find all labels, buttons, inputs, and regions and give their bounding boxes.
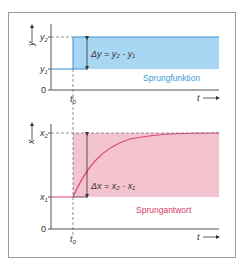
step-response-caption: Sprungantwort: [136, 205, 192, 215]
y-axis-label: y: [26, 41, 36, 47]
zero-label: 0: [41, 85, 46, 95]
t-label: t: [197, 93, 200, 103]
x-axis-label: x: [26, 139, 36, 145]
t0-label-bottom: t0: [70, 234, 77, 245]
step-function-chart: y y2 y1 0 t0 t Δy = y₂ - y₁ Sprungfunkti…: [26, 24, 219, 105]
delta-y-label: Δy = y₂ - y₁: [90, 49, 135, 59]
step-function-caption: Sprungfunktion: [143, 73, 200, 83]
x2-label: x2: [39, 128, 49, 139]
zero-label-bottom: 0: [41, 224, 46, 234]
x1-label: x1: [39, 192, 48, 203]
y1-label: y1: [39, 64, 48, 75]
delta-x-label: Δx = x₂ - x₁: [90, 181, 135, 191]
step-response-diagram: y y2 y1 0 t0 t Δy = y₂ - y₁ Sprungfunkti…: [0, 0, 238, 263]
t-label-bottom: t: [197, 232, 200, 242]
step-response-chart: x x2 x1 0 t0 t Δx = x₂ - x₁ Sprungantwor…: [26, 97, 219, 245]
y2-label: y2: [39, 32, 49, 43]
